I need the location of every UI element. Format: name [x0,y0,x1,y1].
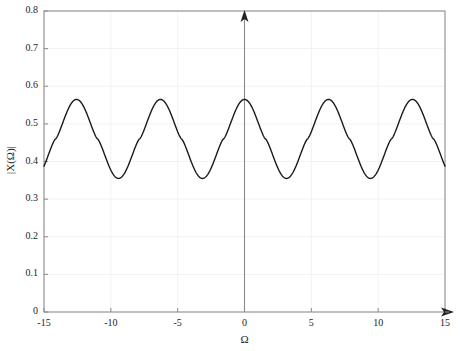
x-axis-tick-label: 15 [425,317,460,328]
chart-plot-area [0,0,460,351]
chart-y-axis-label: |X(Ω)| [4,138,16,182]
y-axis-tick-label: 0.2 [26,230,39,241]
y-axis-tick-label: 0.6 [26,79,39,90]
chart-background [0,0,460,351]
x-axis-tick-label: -5 [158,317,198,328]
y-axis-tick-label: 0.8 [26,4,39,15]
x-axis-tick-label: -10 [91,317,131,328]
x-axis-tick-label: -15 [24,317,64,328]
y-axis-tick-label: 0.4 [26,155,39,166]
y-axis-tick-label: 0 [33,305,38,316]
x-axis-tick-label: 5 [291,317,331,328]
y-axis-tick-label: 0.1 [26,267,39,278]
chart-x-axis-label: Ω [225,333,265,345]
x-axis-tick-label: 10 [358,317,398,328]
y-axis-tick-label: 0.7 [26,42,39,53]
chart-figure: 00.10.20.30.40.50.60.70.8-15-10-5051015 … [0,0,460,351]
y-axis-tick-label: 0.3 [26,192,39,203]
x-axis-tick-label: 0 [225,317,265,328]
y-axis-tick-label: 0.5 [26,117,39,128]
